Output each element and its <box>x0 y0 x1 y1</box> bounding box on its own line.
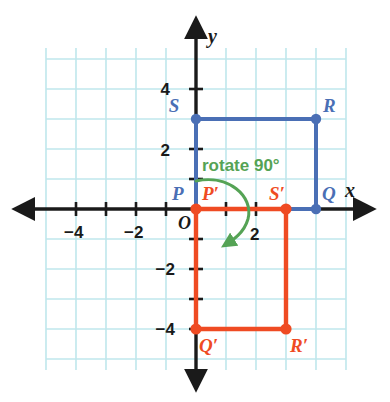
vertex-label-p-prime: P′ <box>201 183 219 204</box>
vertex-point-r <box>311 114 321 124</box>
vertex-label-p: P <box>171 183 184 204</box>
vertex-label-s-prime: S′ <box>269 183 285 204</box>
x-tick-label-2: 2 <box>250 225 259 244</box>
vertex-label-r-prime: R′ <box>289 335 308 356</box>
rotation-graph: x y O −4 −2 2 4 2 −2 −4 rotat <box>0 0 390 402</box>
vertex-label-s: S <box>169 95 180 116</box>
rotate-annotation-label: rotate 90° <box>202 156 280 175</box>
origin-label: O <box>178 213 191 233</box>
y-axis-label: y <box>206 25 217 48</box>
vertex-point-s-prime <box>280 203 291 214</box>
vertex-label-r: R <box>322 95 336 116</box>
x-axis-label: x <box>344 179 355 201</box>
x-tick-label--4: −4 <box>64 223 84 242</box>
vertex-point-p-prime <box>190 203 201 214</box>
vertex-label-q: Q <box>322 183 336 204</box>
vertex-point-q-prime <box>190 323 201 334</box>
vertex-label-q-prime: Q′ <box>199 335 218 356</box>
y-tick-label--4: −4 <box>156 320 176 339</box>
x-tick-label--2: −2 <box>124 223 143 242</box>
vertex-point-r-prime <box>280 323 291 334</box>
vertex-point-q <box>311 204 321 214</box>
vertex-point-s <box>191 114 201 124</box>
coordinate-plane-figure: x y O −4 −2 2 4 2 −2 −4 rotat <box>0 0 390 402</box>
y-tick-label--2: −2 <box>156 260 175 279</box>
y-tick-label-2: 2 <box>161 141 170 160</box>
